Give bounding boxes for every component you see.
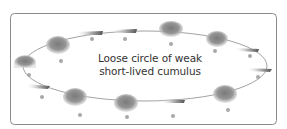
cumulus-cloud-icon xyxy=(46,36,70,54)
dot-icon xyxy=(213,49,217,53)
cumulus-cloud-icon xyxy=(114,94,138,112)
cumulus-cloud-icon xyxy=(159,21,183,37)
label-line-2: short-lived cumulus xyxy=(90,65,210,78)
label-line-1: Loose circle of weak xyxy=(90,52,210,65)
cumulus-cloud-icon xyxy=(206,31,228,47)
dot-icon xyxy=(226,108,230,112)
streak-cloud-icon xyxy=(246,68,272,72)
diagram-canvas: Loose circle of weak short-lived cumulus xyxy=(0,0,287,129)
cumulus-cloud-icon xyxy=(213,85,237,103)
cumulus-cloud-icon xyxy=(63,88,87,106)
dot-icon xyxy=(40,95,44,99)
dot-icon xyxy=(125,115,129,119)
dot-icon xyxy=(248,54,252,58)
dot-icon xyxy=(169,42,173,46)
diagram-label: Loose circle of weak short-lived cumulus xyxy=(90,52,210,77)
dot-icon xyxy=(59,59,63,63)
streak-cloud-icon xyxy=(76,31,103,35)
dot-icon xyxy=(171,114,175,118)
dot-icon xyxy=(78,113,82,117)
streak-cloud-icon xyxy=(26,84,50,89)
dot-icon xyxy=(90,37,94,41)
streak-cloud-icon xyxy=(111,29,137,33)
dot-icon xyxy=(123,37,127,41)
dot-icon xyxy=(256,75,260,79)
dot-icon xyxy=(27,73,31,77)
streak-cloud-icon xyxy=(234,48,259,52)
cumulus-cloud-icon xyxy=(14,55,36,68)
